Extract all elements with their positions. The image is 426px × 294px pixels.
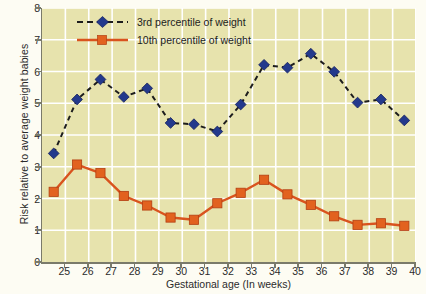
data-point-marker-square bbox=[330, 212, 339, 221]
data-point-marker-square bbox=[72, 160, 81, 169]
data-point-marker-square bbox=[213, 199, 222, 208]
data-point-marker-square bbox=[306, 200, 315, 209]
data-point-marker-square bbox=[49, 187, 58, 196]
data-point-marker-square bbox=[143, 201, 152, 210]
data-point-marker-diamond bbox=[352, 97, 363, 108]
data-point-marker-square bbox=[236, 188, 245, 197]
x-axis-line bbox=[41, 262, 415, 264]
data-point-marker-diamond bbox=[399, 115, 410, 126]
data-point-marker-square bbox=[119, 191, 128, 200]
data-point-marker-square bbox=[400, 221, 409, 230]
data-point-marker-diamond bbox=[259, 59, 270, 70]
legend-label-3rd-percentile: 3rd percentile of weight bbox=[137, 16, 246, 28]
legend-item-10th-percentile: 10th percentile of weight bbox=[75, 32, 251, 48]
legend-key-solid-square-icon bbox=[75, 34, 130, 46]
chart-legend: 3rd percentile of weight 10th percentile… bbox=[75, 14, 251, 50]
data-point-marker-square bbox=[353, 220, 362, 229]
data-point-marker-diamond bbox=[48, 148, 59, 159]
legend-label-10th-percentile: 10th percentile of weight bbox=[137, 34, 251, 46]
data-point-marker-square bbox=[189, 215, 198, 224]
data-point-marker-diamond bbox=[118, 92, 129, 103]
legend-item-3rd-percentile: 3rd percentile of weight bbox=[75, 14, 251, 30]
data-point-marker-square bbox=[96, 169, 105, 178]
data-point-marker-diamond bbox=[189, 119, 200, 130]
x-axis-title: Gestational age (In weeks) bbox=[41, 278, 416, 290]
data-point-marker-square bbox=[166, 213, 175, 222]
data-point-marker-square bbox=[283, 190, 292, 199]
legend-key-dashed-diamond-icon bbox=[75, 16, 130, 28]
data-point-marker-square bbox=[376, 219, 385, 228]
data-point-marker-square bbox=[259, 175, 268, 184]
data-point-marker-diamond bbox=[142, 83, 153, 94]
data-point-marker-diamond bbox=[165, 118, 176, 129]
